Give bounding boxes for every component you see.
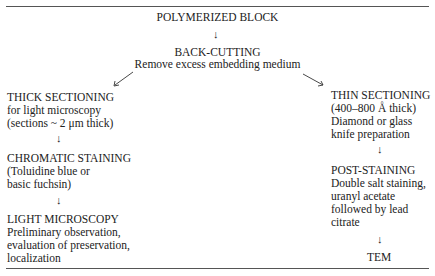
node-line: uranyl acetate <box>331 190 395 203</box>
node-title: THIN SECTIONING <box>331 89 430 102</box>
node-line: for light microscopy <box>7 104 101 117</box>
arrow-down-left-icon <box>114 72 133 86</box>
node-tem: TEM <box>367 251 391 264</box>
arrow-down-icon: ↓ <box>56 133 62 144</box>
arrow-down-right-icon <box>303 74 323 86</box>
node-line: Double salt staining, <box>331 177 426 190</box>
node-line: citrate <box>331 216 360 229</box>
node-line: localization <box>7 252 61 265</box>
bottom-rule <box>6 268 429 269</box>
node-line: Diamond or glass <box>331 115 412 128</box>
node-line: (Toluidine blue or <box>7 165 90 178</box>
arrow-down-icon: ↓ <box>377 144 383 155</box>
node-title: CHROMATIC STAINING <box>7 152 131 165</box>
arrow-down-icon: ↓ <box>56 195 62 206</box>
node-line: (400–800 Å thick) <box>331 102 416 115</box>
node-line: followed by lead <box>331 203 408 216</box>
node-title: POST-STAINING <box>331 164 415 177</box>
node-line: Preliminary observation, <box>7 226 121 239</box>
node-line: evaluation of preservation, <box>7 239 130 252</box>
node-line: (sections ~ 2 μm thick) <box>7 117 113 130</box>
node-line: knife preparation <box>331 128 410 141</box>
node-title: THICK SECTIONING <box>7 91 114 104</box>
arrow-down-icon: ↓ <box>377 234 383 245</box>
node-title: LIGHT MICROSCOPY <box>7 213 119 226</box>
node-line: basic fuchsin) <box>7 178 71 191</box>
